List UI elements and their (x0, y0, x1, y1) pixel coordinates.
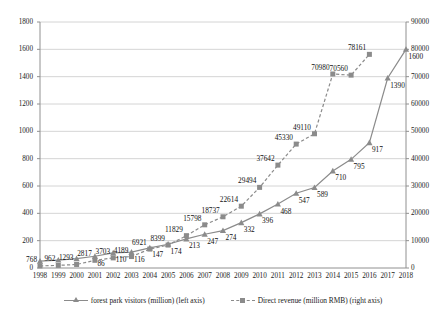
right-axis-tick: 20000 (411, 209, 445, 217)
data-label-revenue: 8399 (150, 235, 165, 243)
left-axis-tick: 1200 (7, 100, 33, 108)
square-marker-icon (231, 296, 255, 304)
data-label-revenue: 962 (44, 255, 55, 263)
category-axis-tick: 2007 (195, 272, 215, 280)
data-label-revenue: 45330 (275, 134, 293, 142)
category-axis-tick: 1999 (48, 272, 68, 280)
category-axis-tick: 2012 (286, 272, 306, 280)
data-label-revenue: 70980 (311, 64, 329, 72)
legend-item-revenue[interactable]: Direct revenue (million RMB) (right axis… (231, 296, 383, 305)
data-label-visitors: 795 (354, 163, 365, 171)
data-label-visitors: 86 (97, 260, 104, 268)
category-axis-tick: 1998 (30, 272, 50, 280)
data-label-visitors: 247 (207, 238, 218, 246)
data-label-visitors: 1390 (390, 82, 405, 90)
category-axis-tick: 2008 (213, 272, 233, 280)
category-axis-tick: 2010 (250, 272, 270, 280)
category-axis-tick: 2003 (122, 272, 142, 280)
left-axis-tick: 1600 (7, 45, 33, 53)
data-label-visitors: 710 (335, 174, 346, 182)
data-label-revenue: 29494 (238, 177, 256, 185)
legend-item-visitors[interactable]: forest park visitors (million) (left axi… (64, 296, 205, 305)
left-axis-tick: 800 (7, 155, 33, 163)
right-axis-tick: 10000 (411, 237, 445, 245)
category-axis-tick: 2015 (341, 272, 361, 280)
data-label-visitors: 116 (134, 256, 145, 264)
category-axis-tick: 2011 (268, 272, 288, 280)
right-axis-tick: 50000 (411, 127, 445, 135)
category-axis-tick: 2016 (359, 272, 379, 280)
category-axis-tick: 2018 (396, 272, 416, 280)
data-label-revenue: 768 (26, 256, 37, 264)
data-label-visitors: 213 (189, 242, 200, 250)
data-label-visitors: 274 (226, 234, 237, 242)
data-label-visitors: 468 (280, 208, 291, 216)
category-axis-tick: 2013 (305, 272, 325, 280)
data-label-revenue: 1293 (59, 254, 74, 262)
data-label-revenue: 15798 (183, 215, 201, 223)
chart-legend: forest park visitors (million) (left axi… (0, 293, 446, 307)
legend-label-visitors: forest park visitors (million) (left axi… (91, 296, 205, 305)
plot-canvas (0, 0, 446, 315)
data-label-revenue: 22614 (220, 196, 238, 204)
left-axis-tick: 200 (7, 237, 33, 245)
data-label-visitors: 174 (171, 248, 182, 256)
data-label-visitors: 332 (244, 226, 255, 234)
right-axis-tick: 40000 (411, 155, 445, 163)
left-axis-tick: 1000 (7, 127, 33, 135)
data-label-revenue: 49110 (293, 124, 311, 132)
data-label-visitors: 917 (372, 146, 383, 154)
data-label-visitors: 396 (262, 217, 273, 225)
category-axis-tick: 2014 (323, 272, 343, 280)
data-label-visitors: 110 (116, 256, 127, 264)
category-axis-tick: 2017 (378, 272, 398, 280)
category-axis-tick: 2009 (231, 272, 251, 280)
data-label-visitors: 547 (299, 197, 310, 205)
data-label-revenue: 4189 (114, 247, 129, 255)
data-label-visitors: 1600 (409, 53, 424, 61)
category-axis-tick: 2004 (140, 272, 160, 280)
legend-label-revenue: Direct revenue (million RMB) (right axis… (258, 296, 383, 305)
data-label-revenue: 2817 (77, 250, 92, 258)
data-label-visitors: 147 (152, 251, 163, 259)
category-axis-tick: 2005 (158, 272, 178, 280)
category-axis-tick: 2000 (67, 272, 87, 280)
data-label-visitors: 589 (317, 191, 328, 199)
left-axis-tick: 400 (7, 209, 33, 217)
left-axis-tick: 0 (7, 264, 33, 272)
category-axis-tick: 2006 (176, 272, 196, 280)
right-axis-tick: 60000 (411, 100, 445, 108)
category-axis-tick: 2002 (103, 272, 123, 280)
category-axis-tick: 2001 (85, 272, 105, 280)
data-label-revenue: 3703 (96, 248, 111, 256)
data-label-revenue: 78161 (348, 44, 366, 52)
dual-axis-line-chart: 020040060080010001200140016001800 010000… (0, 0, 446, 315)
data-label-revenue: 18737 (202, 207, 220, 215)
data-label-revenue: 6921 (132, 239, 147, 247)
right-axis-tick: 70000 (411, 73, 445, 81)
left-axis-tick: 1800 (7, 18, 33, 26)
data-label-revenue: 70560 (330, 65, 348, 73)
data-label-revenue: 37642 (256, 155, 274, 163)
data-label-revenue: 11829 (165, 226, 183, 234)
right-axis-tick: 0 (411, 264, 445, 272)
left-axis-tick: 600 (7, 182, 33, 190)
right-axis-tick: 90000 (411, 18, 445, 26)
left-axis-tick: 1400 (7, 73, 33, 81)
right-axis-tick: 30000 (411, 182, 445, 190)
triangle-marker-icon (64, 296, 88, 304)
